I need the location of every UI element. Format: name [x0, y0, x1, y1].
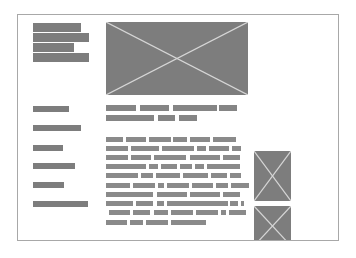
headline-word — [106, 115, 154, 121]
headline-word — [140, 105, 169, 111]
body-word — [157, 201, 164, 206]
headline-word — [106, 105, 136, 111]
body-word — [106, 173, 138, 178]
body-word — [154, 210, 168, 215]
body-word — [106, 164, 146, 169]
body-word — [136, 201, 153, 206]
body-word — [149, 164, 158, 169]
body-word — [109, 210, 130, 215]
body-word — [154, 155, 186, 160]
body-word — [223, 155, 240, 160]
body-word — [180, 164, 192, 169]
body-word — [167, 201, 228, 206]
body-word — [171, 220, 206, 225]
body-word — [230, 173, 241, 178]
body-word — [106, 146, 128, 151]
body-word — [190, 192, 220, 197]
body-word — [126, 137, 146, 142]
body-word — [229, 210, 246, 215]
body-word — [190, 137, 210, 142]
body-word — [230, 201, 238, 206]
body-word — [195, 164, 204, 169]
body-word — [209, 146, 229, 151]
title-bar — [33, 53, 89, 62]
image-placeholder-icon — [254, 206, 291, 241]
body-word — [162, 146, 194, 151]
body-word — [221, 210, 226, 215]
body-word — [223, 192, 240, 197]
body-word — [213, 137, 236, 142]
nav-item[interactable] — [33, 163, 75, 169]
body-word — [241, 201, 244, 206]
body-word — [183, 173, 208, 178]
body-word — [158, 183, 164, 188]
body-word — [167, 183, 189, 188]
body-word — [156, 173, 180, 178]
body-word — [196, 210, 218, 215]
body-word — [133, 183, 155, 188]
body-word — [197, 146, 206, 151]
body-word — [216, 183, 228, 188]
image-placeholder-icon — [106, 22, 248, 95]
body-word — [171, 210, 193, 215]
headline-word — [179, 115, 197, 121]
nav-item[interactable] — [33, 106, 69, 112]
body-word — [106, 155, 128, 160]
side-image-placeholder — [254, 151, 291, 201]
body-word — [192, 183, 213, 188]
nav-item[interactable] — [33, 182, 64, 188]
body-word — [106, 220, 127, 225]
body-word — [133, 210, 150, 215]
body-word — [106, 137, 123, 142]
body-word — [131, 155, 151, 160]
headline-word — [158, 115, 175, 121]
body-word — [106, 201, 133, 206]
title-bar — [33, 23, 81, 32]
body-word — [141, 173, 153, 178]
body-word — [106, 192, 153, 197]
headline-word — [219, 105, 237, 111]
body-word — [130, 220, 143, 225]
body-word — [161, 164, 177, 169]
body-word — [149, 137, 171, 142]
nav-item[interactable] — [33, 125, 81, 131]
body-word — [157, 192, 187, 197]
body-word — [211, 173, 227, 178]
body-word — [131, 146, 159, 151]
title-bar — [33, 43, 74, 52]
page-frame — [17, 14, 339, 241]
body-word — [231, 183, 249, 188]
body-word — [207, 164, 240, 169]
nav-item[interactable] — [33, 201, 88, 207]
body-word — [190, 155, 220, 160]
side-image-placeholder — [254, 206, 291, 241]
body-word — [232, 146, 241, 151]
hero-image-placeholder — [106, 22, 248, 95]
image-placeholder-icon — [254, 151, 291, 201]
body-word — [146, 220, 168, 225]
body-word — [106, 183, 130, 188]
headline-word — [173, 105, 217, 111]
nav-item[interactable] — [33, 145, 63, 151]
title-bar — [33, 33, 89, 42]
body-word — [173, 137, 187, 142]
